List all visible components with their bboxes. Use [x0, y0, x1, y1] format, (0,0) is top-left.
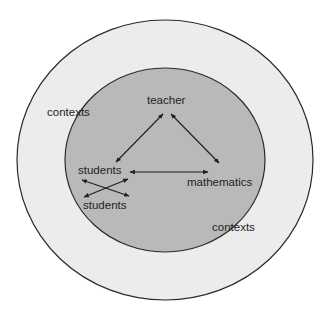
teacher-label: teacher	[147, 95, 185, 107]
outer-contexts-label: contexts	[47, 107, 90, 119]
diagram-canvas: contexts teacher students mathematics st…	[0, 0, 328, 314]
inner-contexts-label: contexts	[212, 222, 255, 234]
mathematics-label: mathematics	[187, 177, 252, 189]
students-bottom-label: students	[83, 200, 126, 212]
diagram-graphics	[0, 0, 328, 314]
students-top-label: students	[78, 165, 121, 177]
